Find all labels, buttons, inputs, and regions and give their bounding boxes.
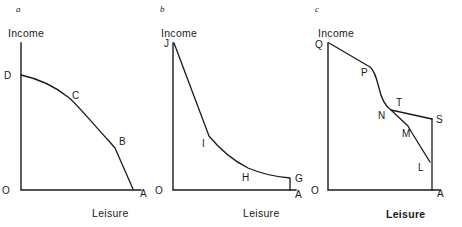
panel-c-point-n: N — [378, 110, 385, 121]
panel-a-y-axis-label: Income — [8, 27, 44, 39]
panel-c-point-s: S — [436, 114, 443, 125]
panel-c-point-a: A — [437, 188, 444, 199]
economics-figure-panels: a Income O D C B A Leisure b Income O J … — [0, 0, 462, 227]
panel-a-axes — [21, 43, 141, 190]
panel-b-point-a: A — [295, 189, 302, 200]
panel-a-point-c: C — [72, 90, 79, 101]
panel-c-point-m: M — [402, 128, 410, 139]
panel-a-letter: a — [16, 4, 21, 14]
panel-c-origin-label: O — [311, 185, 319, 196]
panel-c: c Income O Q P N T M S L A Leisure — [311, 4, 444, 220]
panel-b: b Income O J I H G A Leisure — [155, 4, 303, 219]
panel-a-x-axis-label: Leisure — [92, 207, 129, 219]
panel-c-y-axis-label: Income — [318, 27, 354, 39]
panel-b-letter: b — [160, 4, 165, 14]
panel-b-point-j: J — [164, 38, 169, 49]
panel-b-point-i: I — [202, 138, 205, 149]
panel-b-x-axis-label: Leisure — [243, 207, 280, 219]
panel-c-point-l: L — [418, 162, 424, 173]
panel-a-point-b: B — [119, 136, 126, 147]
panel-c-budget-curve-main — [329, 43, 432, 119]
panel-c-point-q: Q — [315, 39, 323, 50]
panel-a-origin-label: O — [2, 185, 10, 196]
panel-a-point-a: A — [140, 188, 147, 199]
panel-c-point-p: P — [361, 67, 368, 78]
panel-c-x-axis-label: Leisure — [386, 208, 425, 220]
panel-c-point-t: T — [396, 97, 402, 108]
figure-canvas: a Income O D C B A Leisure b Income O J … — [0, 0, 462, 227]
panel-a: a Income O D C B A Leisure — [2, 4, 147, 219]
panel-b-origin-label: O — [155, 185, 163, 196]
panel-b-budget-curve — [174, 43, 290, 190]
panel-a-point-d: D — [4, 70, 11, 81]
panel-b-axes — [173, 43, 296, 190]
panel-b-point-h: H — [242, 172, 249, 183]
panel-c-letter: c — [315, 4, 319, 14]
panel-b-point-g: G — [295, 173, 303, 184]
